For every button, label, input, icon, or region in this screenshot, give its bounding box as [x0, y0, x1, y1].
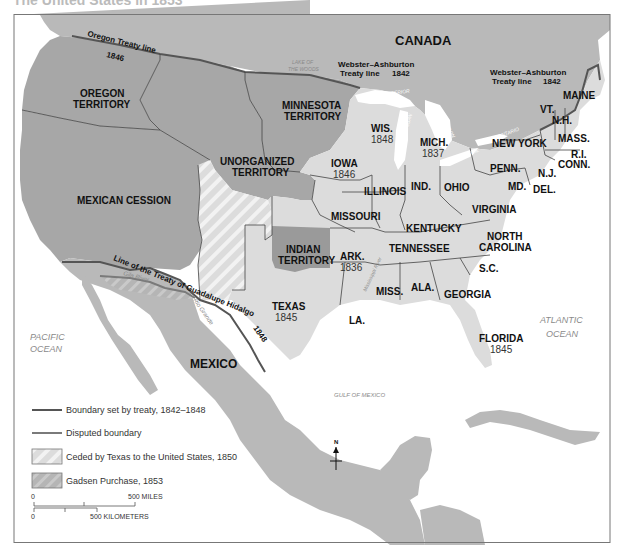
label-md: MD.	[508, 181, 527, 192]
label-gulf: GULF OF MEXICO	[334, 392, 385, 398]
us-1853-map: The United States in 1853	[0, 0, 620, 545]
label-pacific-2: OCEAN	[30, 344, 63, 354]
label-ark-year: 1836	[340, 262, 363, 273]
label-indian-2: TERRITORY	[278, 255, 336, 266]
label-florida-year: 1845	[490, 344, 513, 355]
label-nj: N.J.	[538, 168, 557, 179]
svg-text:Webster–Ashburton: Webster–Ashburton	[338, 60, 414, 69]
legend-disputed-label: Disputed boundary	[66, 428, 142, 438]
label-la: LA.	[349, 315, 365, 326]
label-ind: IND.	[411, 181, 431, 192]
svg-text:Treaty line: Treaty line	[340, 69, 380, 78]
label-unorganized: UNORGANIZED	[220, 156, 294, 167]
label-virginia: VIRGINIA	[472, 204, 516, 215]
label-wis: WIS.	[371, 123, 393, 134]
label-unorganized-2: TERRITORY	[232, 167, 290, 178]
label-ala: ALA.	[411, 282, 435, 293]
label-texas: TEXAS	[272, 301, 306, 312]
label-mass: MASS.	[558, 133, 590, 144]
webster-ashburton-east-label: Webster–Ashburton Treaty line 1842	[490, 68, 566, 86]
label-florida: FLORIDA	[479, 333, 523, 344]
label-minnesota-2: TERRITORY	[284, 111, 342, 122]
map-title: The United States in 1853	[13, 0, 183, 8]
label-lake-woods-2: THE WOODS	[288, 66, 319, 72]
label-mich-year: 1837	[422, 148, 445, 159]
webster-ashburton-west-label: Webster–Ashburton Treaty line 1842	[338, 60, 414, 78]
label-pacific: PACIFIC	[30, 332, 65, 342]
label-texas-year: 1845	[275, 312, 298, 323]
label-canada: CANADA	[395, 33, 452, 48]
label-del: DEL.	[533, 184, 556, 195]
label-ri: R.I.	[571, 149, 587, 160]
svg-text:0: 0	[31, 493, 35, 500]
label-ark: ARK.	[340, 251, 365, 262]
label-mexico: MEXICO	[190, 357, 237, 371]
label-oregon: OREGON	[80, 88, 124, 99]
label-atlantic-2: OCEAN	[546, 329, 579, 339]
label-iowa-year: 1846	[333, 169, 356, 180]
label-sc: S.C.	[479, 263, 499, 274]
label-iowa: IOWA	[331, 158, 358, 169]
label-north-carolina: NORTH	[487, 231, 523, 242]
scale-bar: 0 500 MILES 0 500 KILOMETERS	[31, 493, 163, 520]
svg-text:500 MILES: 500 MILES	[128, 493, 163, 500]
label-mich: MICH.	[420, 137, 449, 148]
legend: Boundary set by treaty, 1842–1848 Disput…	[32, 405, 237, 488]
label-ohio: OHIO	[444, 182, 470, 193]
label-maine: MAINE	[563, 90, 596, 101]
label-miss: MISS.	[376, 286, 403, 297]
label-penn: PENN.	[490, 163, 521, 174]
legend-gadsden-swatch	[32, 473, 62, 488]
label-illinois: ILLINOIS	[364, 186, 407, 197]
label-lake-woods: LAKE OF	[292, 59, 314, 65]
svg-text:1842: 1842	[392, 69, 410, 78]
label-minnesota: MINNESOTA	[282, 100, 341, 111]
label-missouri: MISSOURI	[331, 211, 381, 222]
label-nh: N.H.	[552, 115, 572, 126]
label-mexican-cession: MEXICAN CESSION	[77, 195, 171, 206]
label-georgia: GEORGIA	[444, 289, 491, 300]
svg-text:1842: 1842	[543, 77, 561, 86]
svg-text:Treaty line: Treaty line	[492, 77, 532, 86]
legend-ceded-swatch	[32, 449, 62, 464]
label-oregon-2: TERRITORY	[73, 99, 131, 110]
label-kentucky: KENTUCKY	[406, 223, 462, 234]
label-tennessee: TENNESSEE	[389, 243, 450, 254]
label-atlantic: ATLANTIC	[539, 315, 583, 325]
label-vt: VT.	[540, 104, 555, 115]
label-north-carolina-2: CAROLINA	[479, 242, 532, 253]
cuba	[465, 410, 600, 445]
legend-gadsden-label: Gadsen Purchase, 1853	[66, 476, 163, 486]
label-indian: INDIAN	[286, 244, 320, 255]
legend-ceded-label: Ceded by Texas to the United States, 185…	[66, 452, 237, 462]
svg-text:Webster–Ashburton: Webster–Ashburton	[490, 68, 566, 77]
label-conn: CONN.	[558, 159, 590, 170]
svg-text:0: 0	[31, 513, 35, 520]
svg-text:N: N	[334, 439, 338, 445]
svg-text:500 KILOMETERS: 500 KILOMETERS	[90, 513, 149, 520]
label-new-york: NEW YORK	[492, 138, 548, 149]
legend-treaty-label: Boundary set by treaty, 1842–1848	[66, 405, 205, 415]
label-wis-year: 1848	[371, 134, 394, 145]
